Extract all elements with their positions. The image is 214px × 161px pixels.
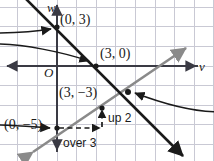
point-label-3-neg3: (3, −3) xyxy=(59,86,97,100)
origin-label: O xyxy=(44,66,53,79)
point-3-0 xyxy=(93,63,98,68)
x-axis-label: v xyxy=(199,60,205,73)
coordinate-plane-svg xyxy=(0,0,214,161)
point-label-3-0: (3, 0) xyxy=(100,47,130,61)
point-intersection xyxy=(125,89,131,95)
rise-annotation-label: up 2 xyxy=(108,112,131,124)
pointer-to-point-0-3 xyxy=(0,29,51,33)
point-3-n3 xyxy=(99,105,104,110)
point-0-3 xyxy=(54,24,59,29)
graph-figure: w v O (0, 3) (3, 0) (3, −3) (0, −5) up 2… xyxy=(0,0,214,161)
y-axis-label: w xyxy=(47,1,56,14)
point-label-0-neg5: (0, −5) xyxy=(4,118,42,132)
run-annotation-label: over 3 xyxy=(63,137,96,149)
point-0-n5 xyxy=(54,125,59,130)
point-label-0-3: (0, 3) xyxy=(60,13,90,27)
